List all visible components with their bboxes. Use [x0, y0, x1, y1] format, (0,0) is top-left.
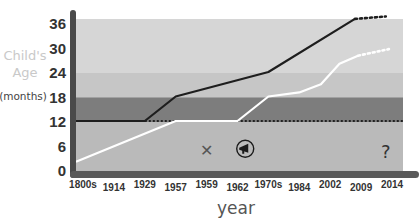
band-18-24 — [76, 72, 403, 98]
chart: ✕? 061218243036 1800s1914192919571959196… — [0, 0, 419, 221]
series-projection-upper — [355, 16, 386, 18]
y-label-line-1: Child's — [3, 48, 46, 63]
x-ticks: 1800s191419291957195919621970s1984200220… — [69, 179, 403, 193]
x-tick-label: 1800s — [69, 179, 97, 190]
y-ticks: 061218243036 — [49, 15, 66, 179]
question-icon: ? — [381, 141, 391, 162]
x-tick-label: 1929 — [134, 179, 157, 190]
y-label-line-3: (months) — [0, 90, 47, 102]
x-mark-icon: ✕ — [200, 141, 213, 160]
band-24-36 — [76, 19, 403, 73]
x-tick-label: 1959 — [195, 179, 218, 190]
x-tick-label: 1970s — [254, 179, 282, 190]
x-tick-label: 2002 — [319, 179, 342, 190]
x-axis-bar — [70, 171, 419, 178]
y-tick-label: 0 — [58, 162, 66, 179]
band-0-12 — [76, 121, 403, 171]
x-tick-label: 1962 — [226, 182, 249, 193]
x-tick-label: 1914 — [103, 182, 126, 193]
y-tick-label: 12 — [49, 113, 66, 130]
x-tick-label: 1984 — [288, 182, 311, 193]
y-tick-label: 36 — [49, 15, 66, 32]
x-tick-label: 1957 — [165, 182, 188, 193]
y-tick-label: 30 — [49, 40, 66, 57]
x-tick-label: 2009 — [350, 182, 373, 193]
y-axis-bar — [70, 10, 76, 178]
x-tick-label: 2014 — [381, 179, 404, 190]
y-tick-label: 24 — [49, 64, 66, 81]
y-tick-label: 6 — [58, 138, 66, 155]
x-axis-label: year — [217, 198, 255, 218]
y-tick-label: 18 — [49, 89, 66, 106]
y-label-line-2: Age — [12, 65, 37, 80]
